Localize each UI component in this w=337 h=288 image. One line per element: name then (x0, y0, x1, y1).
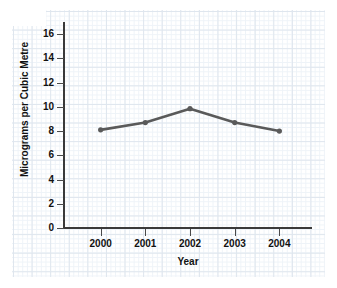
x-axis-tick (190, 229, 191, 236)
x-axis-tick (279, 229, 280, 236)
y-axis-tick (57, 131, 64, 132)
y-axis-tick-label: 4 (32, 175, 54, 185)
y-axis-tick (57, 58, 64, 59)
y-axis-tick-labels: 0246810121416 (28, 0, 54, 288)
x-axis-tick (145, 229, 146, 236)
x-axis-tick-label: 2004 (256, 238, 302, 249)
x-axis-tick-label: 2003 (212, 238, 258, 249)
x-axis-tick (101, 229, 102, 236)
y-axis-tick (57, 204, 64, 205)
y-axis-tick (57, 34, 64, 35)
y-axis-tick-label: 12 (32, 78, 54, 88)
y-axis-tick-label: 6 (32, 150, 54, 160)
y-axis-line (63, 22, 65, 229)
y-axis-tick (57, 155, 64, 156)
y-axis-tick-label: 2 (32, 199, 54, 209)
line-chart: 0246810121416 20002001200220032004 Micro… (0, 0, 337, 288)
y-axis-tick-label: 14 (32, 53, 54, 63)
x-axis-title: Year (64, 256, 312, 267)
y-axis-tick (57, 83, 64, 84)
y-axis-tick-label: 0 (32, 223, 54, 233)
x-axis-tick-label: 2000 (78, 238, 124, 249)
y-axis-tick (57, 180, 64, 181)
y-axis-tick-label: 8 (32, 126, 54, 136)
x-axis-tick-label: 2002 (167, 238, 213, 249)
y-axis-title: Micrograms per Cubic Metre (19, 30, 30, 190)
graph-paper-background (12, 10, 325, 277)
y-axis-tick-label: 10 (32, 102, 54, 112)
y-axis-tick (57, 228, 64, 229)
x-axis-tick-label: 2001 (122, 238, 168, 249)
x-axis-tick (235, 229, 236, 236)
y-axis-tick (57, 107, 64, 108)
y-axis-tick-label: 16 (32, 29, 54, 39)
